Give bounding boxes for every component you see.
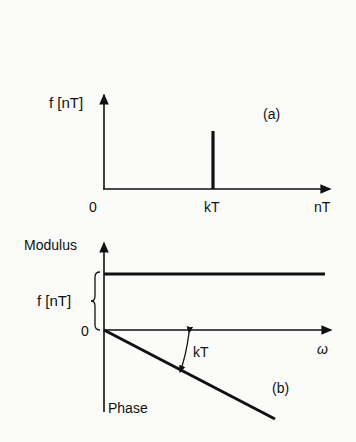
angle-label: kT (193, 344, 209, 360)
modulus-label: Modulus (24, 237, 77, 253)
phase-label: Phase (108, 400, 148, 416)
figure: f [nT] (a) 0 kT nT Modulus f [nT] 0 kT ω… (0, 0, 356, 442)
panel-a-origin-label: 0 (89, 199, 97, 215)
panel-a-x-label: nT (314, 199, 331, 215)
panel-a-y-label: f [nT] (49, 94, 83, 111)
magnitude-brace (91, 272, 100, 330)
panel-a-tick-kT: kT (204, 199, 220, 215)
magnitude-label: f [nT] (37, 292, 71, 309)
panel-b-panel-label: (b) (272, 380, 289, 396)
panel-b: Modulus f [nT] 0 kT ω (b) Phase (24, 237, 331, 419)
panel-b-origin-label: 0 (81, 323, 89, 339)
panel-b-x-label: ω (317, 341, 328, 357)
angle-arc (180, 333, 189, 372)
panel-a: f [nT] (a) 0 kT nT (49, 94, 331, 215)
panel-a-panel-label: (a) (263, 106, 280, 122)
